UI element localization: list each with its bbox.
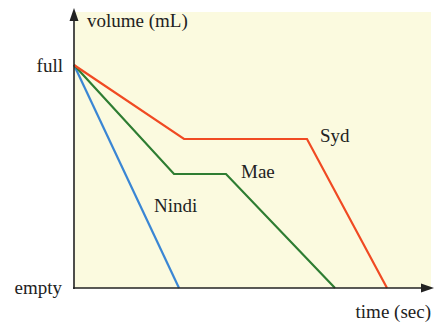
y-tick-empty: empty	[15, 277, 63, 298]
x-axis-label: time (sec)	[356, 301, 431, 323]
y-tick-full: full	[37, 55, 63, 76]
series-label-mae: Mae	[241, 161, 275, 182]
series-label-nindi: Nindi	[154, 195, 197, 216]
chart: volume (mL) time (sec) full empty Nindi …	[0, 0, 446, 328]
y-axis-label: volume (mL)	[87, 10, 188, 32]
plot-background	[74, 12, 431, 288]
series-label-syd: Syd	[320, 125, 350, 146]
